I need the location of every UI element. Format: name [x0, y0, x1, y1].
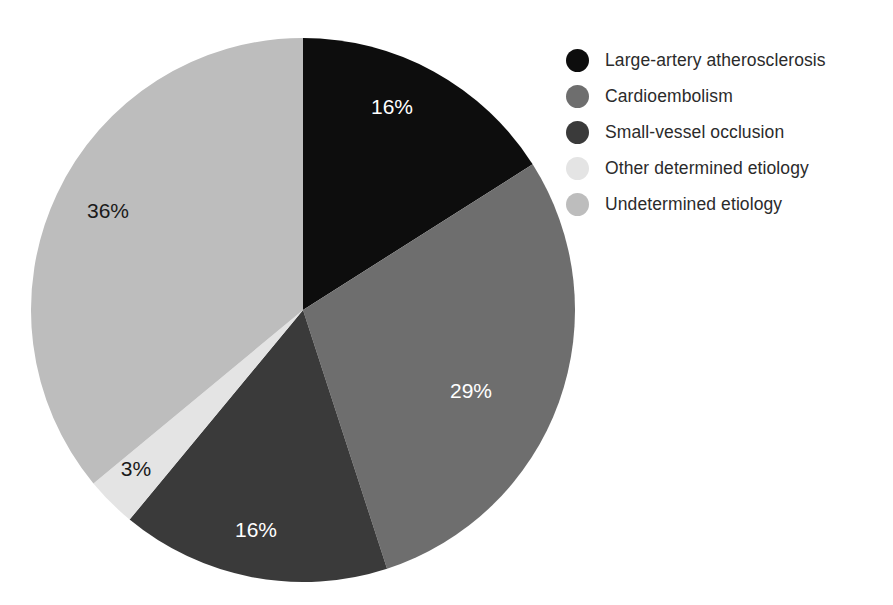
legend-item-label: Cardioembolism — [605, 86, 733, 107]
pie-chart-area: 16%29%16%3%36% — [0, 0, 605, 605]
pie-chart-svg: 16%29%16%3%36% — [0, 0, 605, 605]
legend-item: Cardioembolism — [566, 78, 886, 114]
legend-swatch-icon — [566, 157, 589, 180]
legend-item: Other determined etiology — [566, 150, 886, 186]
chart-legend: Large-artery atherosclerosisCardioemboli… — [566, 42, 886, 222]
pie-slice-value-label: 16% — [371, 95, 413, 118]
pie-slice-value-label: 36% — [87, 199, 129, 222]
legend-item: Undetermined etiology — [566, 186, 886, 222]
legend-item: Small-vessel occlusion — [566, 114, 886, 150]
legend-item-label: Other determined etiology — [605, 158, 809, 179]
legend-item-label: Undetermined etiology — [605, 194, 782, 215]
legend-item: Large-artery atherosclerosis — [566, 42, 886, 78]
legend-item-label: Small-vessel occlusion — [605, 122, 784, 143]
pie-slice-group — [31, 38, 575, 582]
legend-swatch-icon — [566, 121, 589, 144]
pie-slice-value-label: 16% — [235, 518, 277, 541]
pie-slice-value-label: 29% — [450, 379, 492, 402]
legend-item-label: Large-artery atherosclerosis — [605, 50, 826, 71]
pie-chart-figure: 16%29%16%3%36% Large-artery atherosclero… — [0, 0, 893, 605]
legend-swatch-icon — [566, 193, 589, 216]
legend-swatch-icon — [566, 85, 589, 108]
legend-swatch-icon — [566, 49, 589, 72]
pie-slice-value-label: 3% — [121, 457, 151, 480]
